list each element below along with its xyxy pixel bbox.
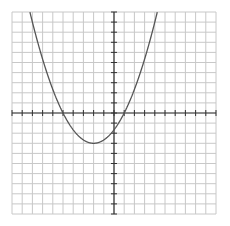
coordinate-plane [0,0,230,226]
